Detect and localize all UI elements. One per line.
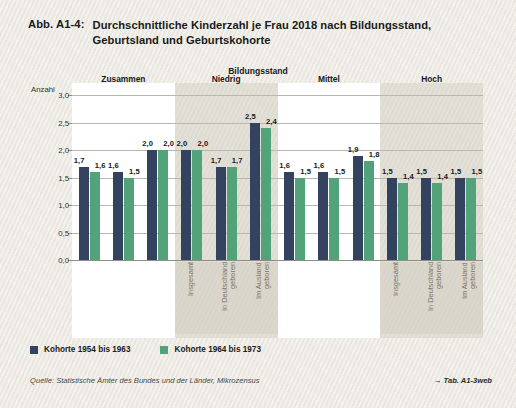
table-reference-link[interactable]: → Tab. A1-3web xyxy=(434,376,492,385)
legend: Kohorte 1954 bis 1963 Kohorte 1964 bis 1… xyxy=(30,345,261,354)
y-tick-label: 0,5 xyxy=(29,229,69,238)
bar xyxy=(329,178,339,261)
legend-label: Kohorte 1954 bis 1963 xyxy=(44,345,130,354)
bar-value-label: 1,5 xyxy=(327,167,353,176)
group-header-niedrig: Niedrig xyxy=(175,74,278,84)
bar xyxy=(295,178,305,261)
bar xyxy=(113,172,123,260)
gridline xyxy=(72,260,483,261)
legend-swatch-icon xyxy=(30,346,38,354)
legend-label: Kohorte 1964 bis 1973 xyxy=(174,345,260,354)
bar-value-label: 2,0 xyxy=(190,139,216,148)
gridline xyxy=(72,95,483,96)
bar xyxy=(227,167,237,261)
bar xyxy=(261,128,271,260)
bar xyxy=(432,183,442,260)
bar xyxy=(250,123,260,261)
bar xyxy=(398,183,408,260)
bar xyxy=(364,161,374,260)
bar xyxy=(466,178,476,261)
legend-swatch-icon xyxy=(160,346,168,354)
y-tick-label: 1,5 xyxy=(29,174,69,183)
group-header-hoch: Hoch xyxy=(380,74,483,84)
bar-value-label: 2,4 xyxy=(258,117,284,126)
bar xyxy=(124,178,134,261)
bar xyxy=(192,150,202,260)
bar xyxy=(421,178,431,261)
bar xyxy=(353,156,363,261)
y-tick-label: 1,0 xyxy=(29,201,69,210)
bar xyxy=(216,167,226,261)
bar-value-label: 1,7 xyxy=(224,156,250,165)
plot-area: 0,00,51,01,52,02,53,0ZusammenNiedrigMitt… xyxy=(72,95,483,260)
figure-title-block: Abb. A1-4: Durchschnittliche Kinderzahl … xyxy=(28,18,494,48)
bar xyxy=(79,167,89,261)
legend-item-cohort2: Kohorte 1964 bis 1973 xyxy=(160,345,260,354)
bar xyxy=(387,178,397,261)
bar-value-label: 1,5 xyxy=(464,167,490,176)
bar-value-label: 1,5 xyxy=(121,167,147,176)
y-tick-label: 3,0 xyxy=(29,91,69,100)
bar xyxy=(147,150,157,260)
group-header-mittel: Mittel xyxy=(278,74,381,84)
y-tick-label: 0,0 xyxy=(29,256,69,265)
group-header-zusammen: Zusammen xyxy=(72,74,175,84)
bar xyxy=(455,178,465,261)
bar xyxy=(284,172,294,260)
bar-value-label: 1,8 xyxy=(361,150,387,159)
bar xyxy=(158,150,168,260)
legend-item-cohort1: Kohorte 1954 bis 1963 xyxy=(30,345,130,354)
figure-container: Abb. A1-4: Durchschnittliche Kinderzahl … xyxy=(0,0,516,408)
bar xyxy=(181,150,191,260)
bar xyxy=(318,172,328,260)
gridline xyxy=(72,150,483,151)
bar xyxy=(90,172,100,260)
figure-number: Abb. A1-4: xyxy=(28,18,85,30)
figure-title: Durchschnittliche Kinderzahl je Frau 201… xyxy=(93,18,494,48)
y-tick-label: 2,5 xyxy=(29,119,69,128)
source-note: Quelle: Statistische Ämter des Bundes un… xyxy=(30,376,260,385)
y-tick-label: 2,0 xyxy=(29,146,69,155)
